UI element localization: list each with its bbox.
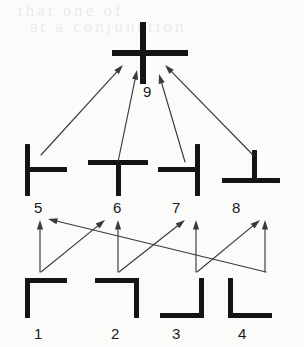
arrow-3-to-7 (193, 220, 199, 272)
junction-label-8: 8 (232, 200, 240, 215)
stroke-horizontal (25, 167, 67, 172)
arrow-shaft (119, 224, 180, 272)
arrow-shaft (41, 224, 100, 272)
stroke-horizontal (158, 167, 200, 172)
arrow-head (37, 220, 43, 230)
junction-shape-8-tee-up (222, 150, 280, 183)
junction-label-9: 9 (143, 84, 151, 99)
junction-shape-9-cross (112, 22, 188, 84)
junction-shape-1-corner-top-left (25, 278, 67, 318)
junction-shape-2-corner-top-right (95, 278, 139, 318)
arrow-head (262, 220, 268, 230)
arrow-1-to-6 (41, 220, 105, 272)
junction-shape-4-corner-bottom-left (228, 278, 272, 318)
stroke-horizontal (222, 178, 280, 183)
stroke-vertical (199, 278, 204, 318)
arrow-head (96, 220, 105, 228)
junction-shape-7-tee-left (158, 144, 200, 196)
junction-label-5: 5 (34, 200, 42, 215)
arrow-2-to-6 (115, 220, 121, 272)
junction-shape-5-tee-right (25, 144, 67, 196)
arrow-shaft (197, 224, 255, 272)
stroke-horizontal (160, 313, 204, 318)
arrow-4-to-8 (262, 220, 268, 272)
junction-label-3: 3 (172, 326, 180, 341)
arrow-4-to-5 (48, 218, 266, 272)
arrow-head (48, 218, 58, 224)
junction-label-4: 4 (238, 326, 246, 341)
arrow-shaft (118, 76, 136, 162)
arrow-3-to-8 (197, 220, 260, 272)
stroke-vertical (228, 278, 233, 318)
arrow-1-to-5 (37, 220, 43, 272)
stroke-horizontal (228, 313, 272, 318)
stroke-vertical (25, 278, 30, 318)
arrow-head (115, 220, 121, 230)
stroke-horizontal (112, 50, 188, 56)
junction-label-7: 7 (172, 200, 180, 215)
junction-label-2: 2 (111, 326, 119, 341)
junction-hierarchy-figure: that one of at a conjunction 9 5 6 7 8 1 (0, 0, 304, 347)
arrow-2-to-7 (119, 220, 185, 272)
junction-label-6: 6 (113, 200, 121, 215)
junction-label-1: 1 (34, 326, 42, 341)
arrow-shaft (41, 70, 119, 155)
arrow-5-to-9 (41, 65, 123, 155)
arrow-head (176, 220, 185, 228)
arrow-shaft (54, 221, 266, 272)
stroke-vertical (116, 160, 121, 196)
stroke-horizontal (25, 278, 67, 283)
scan-bleedthrough-line-1: that one of (18, 1, 124, 21)
stroke-vertical (134, 278, 139, 318)
junction-shape-3-corner-bottom-right (160, 278, 204, 318)
arrow-head (193, 220, 199, 230)
arrow-head (251, 220, 260, 228)
junction-shape-6-tee-down (88, 160, 148, 196)
stroke-horizontal (95, 278, 139, 283)
